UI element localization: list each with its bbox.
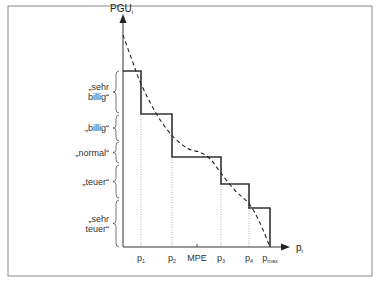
price-utility-diagram: PGUi pi p1p2MPEp3p4pmax „sehrbillig“„bil… <box>0 0 377 283</box>
x-tick-label: MPE <box>187 253 207 263</box>
category-label: „normal“ <box>75 148 109 158</box>
category-label: „teuer“ <box>82 177 109 187</box>
frame-border <box>8 6 372 276</box>
category-label: billig“ <box>88 92 109 102</box>
y-axis-label: PGUi <box>110 3 133 15</box>
category-label: teuer“ <box>85 224 109 234</box>
category-label: „sehr <box>88 82 109 92</box>
category-label: „sehr <box>88 214 109 224</box>
category-label: „billig“ <box>85 123 109 133</box>
